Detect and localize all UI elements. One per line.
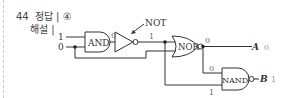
junction-dot	[163, 40, 167, 44]
output-A-label: A	[251, 42, 259, 52]
nand-bubble	[249, 77, 254, 82]
not-output-value: 1	[149, 32, 154, 41]
not-gate-label: NOT	[145, 18, 166, 28]
nand-gate-label: NAND	[222, 76, 248, 85]
output-B-label: B	[259, 74, 268, 84]
logic-circuit-diagram: 1 0 AND 0 NOT 1 NOR 0 A 0 0 NAND 1 B 1	[0, 0, 284, 98]
and-gate-label: AND	[87, 38, 110, 48]
and-output-value: 0	[111, 31, 116, 40]
input-2-value: 0	[58, 42, 64, 52]
output-B-value: 1	[271, 75, 276, 84]
nor-gate-label: NOR	[178, 42, 199, 52]
nand-bottom-input-value: 1	[209, 88, 214, 97]
nand-top-input-value: 0	[209, 64, 214, 73]
input-1-value: 1	[58, 32, 64, 42]
not-bubble	[133, 40, 138, 45]
not-gate	[115, 32, 133, 52]
output-A-value: 0	[264, 43, 269, 52]
junction-dot	[73, 45, 77, 49]
nor-output-value: 0	[205, 36, 210, 45]
junction-dot	[201, 45, 205, 49]
